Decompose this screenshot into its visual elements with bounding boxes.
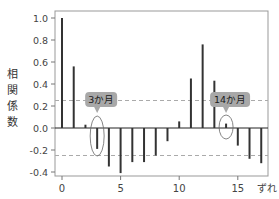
- y-tick-label: 0.6: [33, 57, 48, 68]
- y-axis-label-char: 関: [7, 84, 18, 97]
- y-axis-ticks: 1.00.80.60.40.20.0-0.2-0.4: [29, 13, 55, 178]
- y-tick-label: 1.0: [33, 13, 48, 24]
- y-tick-label: 0.4: [33, 79, 48, 90]
- x-tick-label: 15: [231, 183, 244, 194]
- svg-text:14か月: 14か月: [214, 94, 246, 105]
- x-tick-label: 5: [117, 183, 123, 194]
- y-axis-label-char: 係: [7, 100, 18, 113]
- x-tick-label: 10: [173, 183, 186, 194]
- y-tick-label: -0.2: [29, 145, 48, 156]
- autocorrelation-chart: 相関係数 1.00.80.60.40.20.0-0.2-0.4 051015 ず…: [0, 0, 279, 199]
- y-tick-label: 0.8: [33, 35, 48, 46]
- y-axis-label-char: 相: [7, 68, 18, 81]
- y-tick-label: -0.4: [29, 167, 48, 178]
- y-axis-label: 相関係数: [7, 68, 18, 129]
- y-axis-label-char: 数: [7, 116, 18, 129]
- y-tick-label: 0.0: [33, 123, 48, 134]
- callout-label: 14か月: [210, 92, 250, 113]
- callout-label: 3か月: [85, 92, 117, 113]
- y-tick-label: 0.2: [33, 101, 48, 112]
- x-axis-label: ずれ: [257, 183, 277, 194]
- svg-text:3か月: 3か月: [88, 94, 114, 105]
- x-tick-label: 0: [59, 183, 65, 194]
- x-axis-ticks: 051015: [59, 176, 244, 194]
